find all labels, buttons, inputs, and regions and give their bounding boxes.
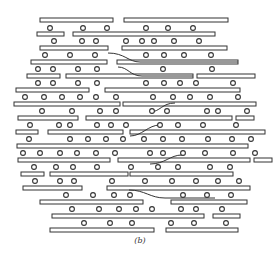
node-circle: [113, 151, 118, 156]
node-circle: [93, 53, 98, 58]
node-circle: [161, 137, 166, 142]
node-circle: [231, 81, 236, 86]
node-circle: [75, 151, 80, 156]
chain-bar: [31, 60, 107, 64]
node-circle: [95, 165, 100, 170]
node-circle: [151, 95, 156, 100]
chain-bar: [105, 88, 240, 92]
node-circle: [182, 53, 187, 58]
node-circle: [70, 207, 75, 212]
node-circle: [161, 151, 166, 156]
node-circle: [178, 81, 183, 86]
node-circle: [210, 67, 215, 72]
node-circle: [51, 81, 56, 86]
node-circle: [33, 179, 38, 184]
node-circle: [188, 95, 193, 100]
node-circle: [180, 137, 185, 142]
chain-bar: [122, 46, 227, 50]
node-circle: [134, 207, 139, 212]
node-circle: [169, 221, 174, 226]
node-circle: [253, 151, 258, 156]
node-circle: [68, 137, 73, 142]
node-circle: [71, 165, 76, 170]
chain-bar: [18, 116, 78, 120]
node-circle: [95, 81, 100, 86]
node-circle: [58, 151, 63, 156]
node-circle: [224, 221, 229, 226]
node-circle: [162, 53, 167, 58]
node-circle: [94, 151, 99, 156]
node-circle: [148, 151, 153, 156]
chain-bar: [52, 214, 204, 218]
node-circle: [60, 95, 65, 100]
node-circle: [144, 53, 149, 58]
node-circle: [220, 207, 225, 212]
chain-bar: [14, 102, 120, 106]
node-circle: [128, 193, 133, 198]
node-circle: [32, 165, 37, 170]
chain-lattice-diagram: [0, 0, 280, 265]
node-circle: [42, 95, 47, 100]
node-circle: [108, 221, 113, 226]
node-circle: [162, 81, 167, 86]
node-circle: [54, 165, 59, 170]
node-circle: [228, 165, 233, 170]
chain-bar: [16, 130, 38, 134]
node-circle: [117, 207, 122, 212]
node-circle: [229, 193, 234, 198]
chain-bar: [50, 228, 154, 232]
node-circle: [129, 165, 134, 170]
chain-bar: [213, 214, 240, 218]
node-circle: [36, 67, 41, 72]
node-circle: [230, 137, 235, 142]
node-circle: [48, 26, 53, 31]
node-circle: [156, 165, 161, 170]
node-circle: [208, 95, 213, 100]
node-circle: [150, 207, 155, 212]
chain-bar: [37, 32, 64, 36]
chain-bar: [166, 228, 238, 232]
node-circle: [203, 151, 208, 156]
node-circle: [72, 179, 77, 184]
node-circle: [205, 193, 210, 198]
chain-bar: [171, 200, 247, 204]
node-circle: [176, 165, 181, 170]
chain-bar: [123, 102, 256, 106]
chain-bar: [254, 158, 272, 162]
node-circle: [109, 123, 114, 128]
node-circle: [121, 137, 126, 142]
node-circle: [179, 207, 184, 212]
chain-bar: [18, 158, 110, 162]
node-circle: [38, 151, 43, 156]
node-circle: [27, 137, 32, 142]
node-circle: [209, 53, 214, 58]
chain-bar: [124, 18, 228, 22]
node-circle: [36, 81, 41, 86]
figure-caption: (b): [0, 236, 280, 245]
chain-bar: [130, 172, 233, 176]
node-circle: [237, 179, 242, 184]
node-circle: [181, 151, 186, 156]
chain-bar: [27, 74, 60, 78]
node-circle: [91, 193, 96, 198]
node-circle: [95, 67, 100, 72]
node-circle: [245, 109, 250, 114]
node-circle: [158, 123, 163, 128]
node-circle: [130, 221, 135, 226]
chain-bar: [73, 32, 215, 36]
node-circle: [82, 221, 87, 226]
node-circle: [58, 179, 63, 184]
node-circle: [161, 67, 166, 72]
node-circle: [216, 179, 221, 184]
node-circle: [191, 26, 196, 31]
chain-bar: [40, 18, 113, 22]
node-circle: [152, 39, 157, 44]
chain-bar: [16, 88, 89, 92]
node-circle: [76, 81, 81, 86]
node-circle: [206, 137, 211, 142]
node-circle: [21, 151, 26, 156]
node-circle: [94, 95, 99, 100]
node-circle: [192, 221, 197, 226]
node-circle: [43, 53, 48, 58]
chain-bar: [130, 130, 265, 134]
